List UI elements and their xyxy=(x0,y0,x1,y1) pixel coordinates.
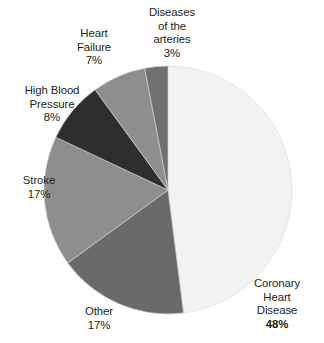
pie-label-line: of the xyxy=(128,20,216,34)
pie-label-percent: 17% xyxy=(62,319,136,333)
pie-label-line: arteries xyxy=(128,33,216,47)
pie-label-line: Stroke xyxy=(2,174,76,188)
pie-label-line: Heart xyxy=(234,291,320,305)
pie-label-percent: 7% xyxy=(54,54,134,68)
pie-label-line: Failure xyxy=(54,41,134,55)
pie-label-line: Coronary xyxy=(234,277,320,291)
pie-label-line: Heart xyxy=(54,27,134,41)
pie-label-line: High Blood xyxy=(5,84,99,98)
pie-label-line: Disease xyxy=(234,304,320,318)
pie-chart: Diseases of the arteries 3% Heart Failur… xyxy=(0,0,324,343)
pie-label-coronary-heart-disease: Coronary Heart Disease 48% xyxy=(234,277,320,331)
pie-label-percent: 3% xyxy=(128,47,216,61)
pie-label-line: Pressure xyxy=(5,98,99,112)
pie-label-percent: 17% xyxy=(2,188,76,202)
pie-label-stroke: Stroke 17% xyxy=(2,174,76,201)
pie-label-heart-failure: Heart Failure 7% xyxy=(54,27,134,68)
pie-label-percent: 8% xyxy=(5,111,99,125)
pie-label-high-blood-pressure: High Blood Pressure 8% xyxy=(5,84,99,125)
pie-label-other: Other 17% xyxy=(62,305,136,332)
pie-slice-coronary-heart-disease xyxy=(168,66,292,313)
pie-label-percent: 48% xyxy=(234,318,320,332)
pie-label-line: Diseases xyxy=(128,6,216,20)
pie-label-line: Other xyxy=(62,305,136,319)
pie-label-diseases-of-the-arteries: Diseases of the arteries 3% xyxy=(128,6,216,60)
